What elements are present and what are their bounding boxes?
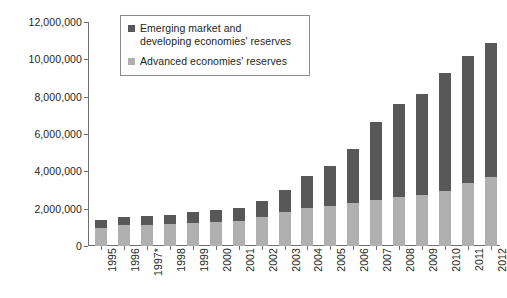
x-axis-tick-label: 2011 xyxy=(473,248,485,294)
bar-group xyxy=(95,220,107,246)
bar-group xyxy=(233,208,245,246)
x-axis-tick-label: 2003 xyxy=(290,248,302,294)
x-axis-tick-label: 1995 xyxy=(106,248,118,294)
bar-segment-emerging xyxy=(370,122,382,200)
legend-label-emerging-line2: developing economies' reserves xyxy=(140,35,291,48)
bar-group xyxy=(187,212,199,246)
bar-segment-advanced xyxy=(485,177,497,246)
x-axis-tick-label: 1996 xyxy=(129,248,141,294)
bar-segment-advanced xyxy=(416,195,428,246)
bar-group xyxy=(164,215,176,246)
bar-segment-advanced xyxy=(324,206,336,246)
bar-group xyxy=(485,43,497,246)
bar-group xyxy=(347,149,359,246)
bar-segment-emerging xyxy=(279,190,291,212)
legend-label-advanced: Advanced economies' reserves xyxy=(140,55,287,68)
bar-segment-advanced xyxy=(95,228,107,246)
x-axis-tick-label: 2010 xyxy=(450,248,462,294)
bar-group xyxy=(439,73,451,246)
bar-group xyxy=(256,201,268,246)
y-axis-tick-labels: 02,000,0004,000,0006,000,0008,000,00010,… xyxy=(16,0,82,298)
bar-segment-advanced xyxy=(210,222,222,246)
bar-segment-advanced xyxy=(301,208,313,246)
x-axis-tick-label: 2012 xyxy=(496,248,507,294)
bar-segment-emerging xyxy=(485,43,497,177)
y-axis-tick-label: 10,000,000 xyxy=(16,54,82,64)
bar-segment-emerging xyxy=(416,94,428,195)
bar-segment-emerging xyxy=(164,215,176,223)
x-axis-tick-label: 1997* xyxy=(152,248,164,294)
bar-segment-emerging xyxy=(301,176,313,208)
legend-label-emerging: Emerging market and developing economies… xyxy=(140,22,291,48)
bar-segment-emerging xyxy=(439,73,451,191)
x-axis-tick-label: 2002 xyxy=(267,248,279,294)
bar-group xyxy=(324,166,336,246)
bar-segment-emerging xyxy=(118,217,130,225)
x-axis-tick-label: 2009 xyxy=(427,248,439,294)
bar-group xyxy=(370,122,382,246)
bar-segment-emerging xyxy=(393,104,405,196)
y-axis-tick-mark xyxy=(84,171,88,172)
bar-group xyxy=(279,190,291,246)
y-axis-tick-label: 12,000,000 xyxy=(16,17,82,27)
y-axis-tick-label: 0 xyxy=(16,241,82,251)
bar-group xyxy=(393,104,405,246)
bar-segment-emerging xyxy=(141,216,153,224)
bar-segment-advanced xyxy=(439,191,451,246)
y-axis-tick-mark xyxy=(84,97,88,98)
y-axis-tick-label: 2,000,000 xyxy=(16,204,82,214)
x-axis-tick-label: 2007 xyxy=(381,248,393,294)
bar-segment-advanced xyxy=(141,225,153,246)
legend-swatch-advanced-icon xyxy=(128,58,135,65)
y-axis-tick-mark xyxy=(84,246,88,247)
bar-group xyxy=(118,217,130,246)
bar-group xyxy=(301,176,313,246)
y-axis-tick-mark xyxy=(84,134,88,135)
y-axis-tick-mark xyxy=(84,59,88,60)
bar-segment-advanced xyxy=(164,224,176,246)
bar-segment-advanced xyxy=(118,225,130,246)
bar-segment-advanced xyxy=(233,221,245,246)
bar-segment-advanced xyxy=(256,217,268,246)
legend-item-advanced: Advanced economies' reserves xyxy=(128,55,301,68)
x-axis-tick-label: 1999 xyxy=(198,248,210,294)
y-axis-tick-label: 8,000,000 xyxy=(16,92,82,102)
legend-label-advanced-line1: Advanced economies' reserves xyxy=(140,55,287,67)
y-axis-tick-mark xyxy=(84,209,88,210)
bar-segment-advanced xyxy=(187,223,199,246)
x-axis-tick-label: 2005 xyxy=(335,248,347,294)
y-axis-tick-mark xyxy=(84,22,88,23)
bar-segment-advanced xyxy=(370,200,382,246)
bar-segment-emerging xyxy=(210,210,222,222)
bar-group xyxy=(210,210,222,246)
x-axis-tick-labels: 199519961997*199819992000200120022003200… xyxy=(88,248,500,298)
x-axis-tick-label: 2008 xyxy=(404,248,416,294)
bar-segment-advanced xyxy=(462,183,474,246)
x-axis-tick-label: 2000 xyxy=(221,248,233,294)
bar-segment-emerging xyxy=(256,201,268,217)
y-axis-tick-label: 4,000,000 xyxy=(16,166,82,176)
bar-segment-emerging xyxy=(324,166,336,206)
legend-label-emerging-line1: Emerging market and xyxy=(140,22,241,34)
x-axis-tick-label: 2001 xyxy=(244,248,256,294)
bar-segment-advanced xyxy=(279,212,291,246)
bar-segment-advanced xyxy=(347,203,359,246)
bar-segment-emerging xyxy=(187,212,199,222)
bar-segment-emerging xyxy=(462,56,474,183)
bar-group xyxy=(462,56,474,246)
x-axis-tick-label: 1998 xyxy=(175,248,187,294)
bar-segment-advanced xyxy=(393,197,405,246)
y-axis-tick-label: 6,000,000 xyxy=(16,129,82,139)
bar-segment-emerging xyxy=(95,220,107,228)
bar-group xyxy=(416,94,428,246)
chart-legend: Emerging market and developing economies… xyxy=(120,15,310,76)
legend-item-emerging: Emerging market and developing economies… xyxy=(128,22,301,48)
x-axis-tick-label: 2004 xyxy=(312,248,324,294)
x-axis-tick-label: 2006 xyxy=(358,248,370,294)
reserves-stacked-bar-chart: Reserves (US$m) 02,000,0004,000,0006,000… xyxy=(0,0,507,298)
bar-segment-emerging xyxy=(233,208,245,221)
bar-segment-emerging xyxy=(347,149,359,203)
legend-swatch-emerging-icon xyxy=(128,25,135,32)
bar-group xyxy=(141,216,153,246)
